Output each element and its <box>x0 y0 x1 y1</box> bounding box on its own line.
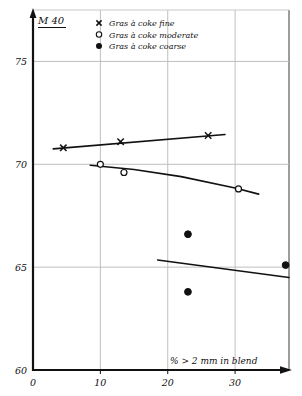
data-point-open-circle <box>97 161 103 167</box>
legend-item-label: Gras à coke fine <box>109 19 175 28</box>
legend-item: Gras à coke fine <box>96 19 174 28</box>
open-circle-marker <box>96 32 101 37</box>
legend-item: Gras à coke coarse <box>96 42 186 51</box>
plot-corner-label: M 40 <box>37 15 66 28</box>
chart-canvas: 60657075 0102030 M 40 % > 2 mm in blend … <box>0 0 302 396</box>
chart-figure: 60657075 0102030 M 40 % > 2 mm in blend … <box>0 0 302 396</box>
data-point-filled-circle <box>282 262 289 269</box>
data-point-filled-circle <box>185 288 192 295</box>
legend-item-label: Gras à coke moderate <box>109 31 198 40</box>
filled-circle-marker <box>96 43 102 49</box>
y-tick-label-60: 60 <box>15 365 27 376</box>
m40-label: M 40 <box>37 15 65 26</box>
x-tick-label-20: 20 <box>161 377 174 388</box>
y-tick-label-70: 70 <box>15 159 27 170</box>
legend-item-label: Gras à coke coarse <box>109 42 186 51</box>
x-tick-label-30: 30 <box>229 377 241 388</box>
legend-item: Gras à coke moderate <box>96 31 198 40</box>
x-tick-label-0: 0 <box>30 377 36 388</box>
data-point-open-circle <box>235 186 241 192</box>
x-tick-label-10: 10 <box>94 377 106 388</box>
data-point-open-circle <box>121 170 127 176</box>
x-axis-label: % > 2 mm in blend <box>170 356 258 366</box>
y-tick-label-75: 75 <box>15 56 27 67</box>
chart-background <box>0 0 302 396</box>
y-tick-label-65: 65 <box>15 262 27 273</box>
data-point-filled-circle <box>185 231 192 238</box>
